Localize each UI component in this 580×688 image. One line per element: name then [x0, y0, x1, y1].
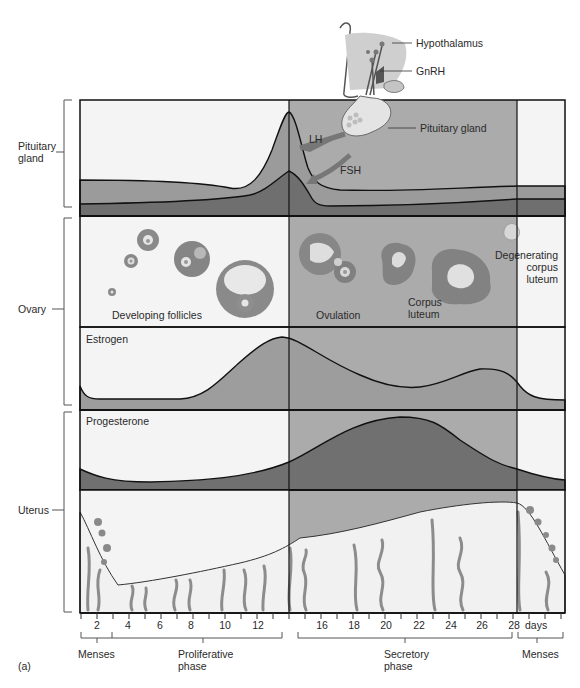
- corpus-luteum-label-line1: Corpus: [408, 296, 442, 308]
- gnrh-label: GnRH: [416, 65, 445, 77]
- tick-day-16: 16: [316, 619, 328, 631]
- pituitary-row-label-line2: gland: [18, 152, 44, 164]
- tick-day-4: 4: [125, 619, 131, 631]
- proliferative-label-line2: phase: [178, 660, 207, 672]
- menstrual-cycle-diagram: Developing follicles Ovulation Corpus lu…: [0, 0, 580, 688]
- tick-day-22: 22: [413, 619, 425, 631]
- fsh-label: FSH: [340, 164, 361, 176]
- tick-day-18: 18: [348, 619, 360, 631]
- menses-end-label: Menses: [522, 648, 559, 660]
- tick-day-2: 2: [94, 619, 100, 631]
- pituitary-gland-label: Pituitary gland: [420, 122, 487, 134]
- corpus-luteum-label-line2: luteum: [408, 308, 440, 320]
- progesterone-label: Progesterone: [86, 415, 149, 427]
- tick-day-20: 20: [380, 619, 392, 631]
- degenerating-label-line2: corpus: [526, 261, 558, 273]
- ovary-row-label: Ovary: [18, 303, 47, 315]
- tick-day-28: 28: [508, 619, 520, 631]
- ovulation-label: Ovulation: [316, 309, 361, 321]
- pituitary-row-label-line1: Pituitary: [18, 140, 57, 152]
- phase-brackets: [81, 632, 563, 643]
- tick-day-26: 26: [476, 619, 488, 631]
- proliferative-label-line1: Proliferative: [178, 648, 234, 660]
- day-axis: 2 4 6 8 10 12 16 18 20 22 24 26 28 days: [80, 613, 565, 631]
- axis-unit-label: days: [525, 619, 547, 631]
- tick-day-8: 8: [188, 619, 194, 631]
- degenerating-label-line1: Degenerating: [495, 249, 558, 261]
- lh-label: LH: [309, 133, 322, 145]
- hypothalamus-label: Hypothalamus: [416, 37, 483, 49]
- developing-follicles-label: Developing follicles: [112, 309, 202, 321]
- secretory-label-line2: phase: [384, 660, 413, 672]
- secretory-label-line1: Secretory: [384, 648, 430, 660]
- tick-day-10: 10: [219, 619, 231, 631]
- estrogen-label: Estrogen: [86, 333, 128, 345]
- tick-day-24: 24: [445, 619, 457, 631]
- tick-day-6: 6: [157, 619, 163, 631]
- menses-start-label: Menses: [78, 648, 115, 660]
- uterus-row-label: Uterus: [18, 504, 49, 516]
- row-brackets: [52, 100, 72, 612]
- tick-day-12: 12: [252, 619, 264, 631]
- figure-label: (a): [18, 660, 31, 672]
- degenerating-label-line3: luteum: [526, 273, 558, 285]
